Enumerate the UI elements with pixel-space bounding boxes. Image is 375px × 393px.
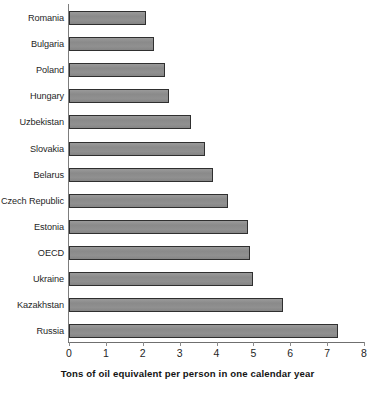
bar (69, 194, 228, 208)
bar-container (69, 11, 146, 25)
x-tick-label: 6 (280, 347, 300, 359)
bar-container (69, 63, 165, 77)
bar (69, 220, 248, 234)
bar-container (69, 298, 283, 312)
bar-row: Kazakhstan (0, 292, 375, 318)
bar-row: Belarus (0, 162, 375, 188)
x-tick-mark (253, 342, 254, 346)
x-tick-mark (180, 342, 181, 346)
bar (69, 11, 146, 25)
x-tick-label: 2 (133, 347, 153, 359)
x-axis-title: Tons of oil equivalent per person in one… (0, 368, 375, 379)
bar-container (69, 272, 253, 286)
bar-chart: RomaniaBulgariaPolandHungaryUzbekistanSl… (0, 0, 375, 393)
bar-container (69, 246, 250, 260)
bar-container (69, 37, 154, 51)
x-tick-mark (327, 342, 328, 346)
x-tick-mark (69, 342, 70, 346)
category-label: Hungary (0, 91, 64, 101)
plot-area: RomaniaBulgariaPolandHungaryUzbekistanSl… (0, 0, 375, 345)
x-axis-ticks: 012345678 (0, 342, 375, 364)
bar (69, 37, 154, 51)
category-label: Belarus (0, 170, 64, 180)
x-tick-label: 5 (243, 347, 263, 359)
bar-row: OECD (0, 240, 375, 266)
x-tick-mark (290, 342, 291, 346)
bar (69, 324, 338, 338)
bar (69, 63, 165, 77)
bar (69, 115, 191, 129)
x-tick-mark (143, 342, 144, 346)
x-tick-label: 3 (170, 347, 190, 359)
bar-row: Russia (0, 318, 375, 344)
category-label: Bulgaria (0, 39, 64, 49)
bar-row: Bulgaria (0, 31, 375, 57)
category-label: Russia (0, 326, 64, 336)
x-tick-label: 0 (59, 347, 79, 359)
category-label: Kazakhstan (0, 300, 64, 310)
bar-container (69, 89, 169, 103)
x-tick-mark (364, 342, 365, 346)
bar-container (69, 324, 338, 338)
bar (69, 298, 283, 312)
category-label: Uzbekistan (0, 117, 64, 127)
category-label: Czech Republic (0, 196, 64, 206)
category-label: Estonia (0, 222, 64, 232)
bar-container (69, 220, 248, 234)
x-tick-label: 7 (317, 347, 337, 359)
bar (69, 89, 169, 103)
bar-container (69, 194, 228, 208)
bar-container (69, 142, 205, 156)
category-label: Ukraine (0, 274, 64, 284)
bar (69, 142, 205, 156)
x-tick-mark (217, 342, 218, 346)
bar-rows: RomaniaBulgariaPolandHungaryUzbekistanSl… (0, 5, 375, 344)
x-tick-label: 1 (96, 347, 116, 359)
category-label: Romania (0, 13, 64, 23)
bar-row: Slovakia (0, 135, 375, 161)
x-tick-label: 4 (207, 347, 227, 359)
bar-container (69, 168, 213, 182)
bar-row: Uzbekistan (0, 109, 375, 135)
bar (69, 168, 213, 182)
bar-row: Romania (0, 5, 375, 31)
category-label: Slovakia (0, 144, 64, 154)
bar-row: Ukraine (0, 266, 375, 292)
bar-row: Czech Republic (0, 188, 375, 214)
category-label: OECD (0, 248, 64, 258)
bar-row: Estonia (0, 214, 375, 240)
bar (69, 246, 250, 260)
x-tick-mark (106, 342, 107, 346)
bar-row: Poland (0, 57, 375, 83)
category-label: Poland (0, 65, 64, 75)
bar-container (69, 115, 191, 129)
bar (69, 272, 253, 286)
bar-row: Hungary (0, 83, 375, 109)
x-tick-label: 8 (354, 347, 374, 359)
